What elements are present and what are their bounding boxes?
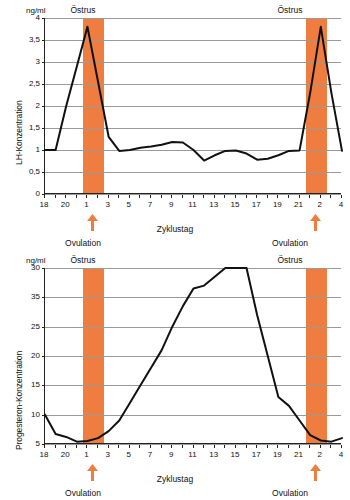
- y-tick-label: 3,5: [10, 35, 40, 44]
- x-tick-label: 7: [140, 450, 160, 459]
- x-tick-mark: [203, 195, 204, 198]
- estrus-label-right-progesterone: Östrus: [262, 255, 318, 265]
- x-tick-mark: [65, 195, 66, 198]
- x-tick-mark: [267, 445, 268, 448]
- x-tick-label: 5: [119, 450, 139, 459]
- plot-area-lh: [44, 18, 341, 194]
- x-tick-mark: [203, 445, 204, 448]
- x-tick-label: 17: [246, 200, 266, 209]
- x-tick-mark: [224, 445, 225, 448]
- x-tick-mark: [235, 445, 236, 448]
- x-tick-mark: [320, 445, 321, 448]
- x-tick-mark: [139, 195, 140, 198]
- data-curve-lh: [45, 18, 342, 194]
- x-tick-label: 18: [34, 200, 54, 209]
- x-tick-mark: [86, 195, 87, 198]
- y-tick-label: 20: [10, 351, 40, 360]
- x-tick-mark: [44, 445, 45, 448]
- x-tick-mark: [330, 445, 331, 448]
- x-tick-mark: [108, 195, 109, 198]
- x-tick-mark: [256, 195, 257, 198]
- x-tick-label: 3: [98, 200, 118, 209]
- y-tick-label: 30: [10, 263, 40, 272]
- x-tick-mark: [150, 445, 151, 448]
- x-tick-label: 18: [34, 450, 54, 459]
- ovulation-arrow-left: [87, 464, 98, 481]
- y-tick-label: 5: [10, 439, 40, 448]
- x-tick-label: 4: [331, 200, 350, 209]
- x-tick-mark: [330, 195, 331, 198]
- x-tick-mark: [129, 445, 130, 448]
- x-tick-mark: [55, 445, 56, 448]
- x-tick-label: 13: [204, 200, 224, 209]
- estrus-label-left-progesterone: Östrus: [55, 255, 111, 265]
- x-tick-label: 20: [55, 450, 75, 459]
- x-tick-mark: [309, 195, 310, 198]
- estrus-label-right-lh: Östrus: [262, 5, 318, 15]
- x-tick-mark: [118, 195, 119, 198]
- x-tick-mark: [214, 195, 215, 198]
- y-tick-label: 35: [10, 292, 40, 301]
- x-tick-mark: [277, 195, 278, 198]
- y-tick-label: 2,5: [10, 79, 40, 88]
- x-tick-label: 15: [225, 450, 245, 459]
- y-tick-label: 0,5: [10, 167, 40, 176]
- y-tick-label: 4: [10, 13, 40, 22]
- x-tick-label: 7: [140, 200, 160, 209]
- y-tick-label: 15: [10, 380, 40, 389]
- x-tick-mark: [182, 445, 183, 448]
- x-tick-mark: [320, 195, 321, 198]
- chart-panel-lh: ng/ml LH-Konzentration Östrus Östrus Zyk…: [0, 0, 350, 250]
- x-tick-mark: [277, 445, 278, 448]
- x-tick-mark: [55, 195, 56, 198]
- x-tick-label: 11: [183, 450, 203, 459]
- x-tick-label: 4: [331, 450, 350, 459]
- x-tick-mark: [309, 445, 310, 448]
- x-tick-mark: [288, 195, 289, 198]
- x-tick-mark: [341, 195, 342, 198]
- x-tick-mark: [193, 195, 194, 198]
- x-tick-label: 3: [98, 450, 118, 459]
- x-tick-mark: [299, 445, 300, 448]
- x-tick-mark: [171, 445, 172, 448]
- y-tick-label: 1: [10, 145, 40, 154]
- x-tick-mark: [86, 445, 87, 448]
- ovulation-label-right-lh: Ovulation: [259, 238, 321, 248]
- x-tick-label: 15: [225, 200, 245, 209]
- plot-area-progesterone: [44, 268, 341, 444]
- x-tick-label: 21: [289, 450, 309, 459]
- y-axis-title-lh: LH-Konzentration: [14, 100, 24, 165]
- x-tick-label: 9: [161, 450, 181, 459]
- x-tick-mark: [97, 445, 98, 448]
- y-tick-label: 1,5: [10, 123, 40, 132]
- x-tick-label: 21: [289, 200, 309, 209]
- x-tick-label: 20: [55, 200, 75, 209]
- x-tick-label: 11: [183, 200, 203, 209]
- ovulation-label-left-lh: Ovulation: [52, 238, 114, 248]
- x-tick-mark: [161, 195, 162, 198]
- x-tick-mark: [299, 195, 300, 198]
- x-tick-label: 2: [310, 450, 330, 459]
- y-tick-label: 3: [10, 57, 40, 66]
- x-tick-mark: [65, 445, 66, 448]
- data-curve-progesterone: [45, 268, 342, 444]
- y-tick-label: 2: [10, 101, 40, 110]
- x-tick-mark: [246, 445, 247, 448]
- x-tick-label: 19: [267, 200, 287, 209]
- x-tick-label: 9: [161, 200, 181, 209]
- y-tick-label: 10: [10, 410, 40, 419]
- x-tick-mark: [182, 195, 183, 198]
- x-tick-mark: [108, 445, 109, 448]
- ovulation-arrow-right: [310, 464, 321, 481]
- x-tick-mark: [150, 195, 151, 198]
- x-tick-label: 5: [119, 200, 139, 209]
- x-tick-mark: [76, 445, 77, 448]
- x-tick-mark: [161, 445, 162, 448]
- x-tick-mark: [246, 195, 247, 198]
- x-tick-mark: [139, 445, 140, 448]
- x-axis-title-progesterone: Zyklustag: [135, 474, 215, 484]
- x-tick-mark: [129, 195, 130, 198]
- x-tick-label: 13: [204, 450, 224, 459]
- x-tick-mark: [224, 195, 225, 198]
- ovulation-arrow-left: [87, 214, 98, 231]
